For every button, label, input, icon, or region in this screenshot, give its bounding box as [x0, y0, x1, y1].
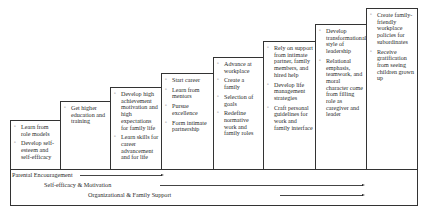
square-bullet-icon: ▫: [14, 124, 16, 131]
self-efficacy-motivation-arrow: [160, 185, 363, 186]
stage-5-item: ▫Create a family: [217, 77, 261, 90]
square-bullet-icon: ▫: [165, 77, 167, 84]
stage-6-item: ▫Rely on support from intimate partner, …: [267, 45, 313, 79]
stage-4-item: ▫Form intimate partnership: [165, 120, 211, 133]
stage-3-item: ▫Learn skills for career advancement and…: [114, 134, 159, 161]
stage-4-item: ▫Start career: [165, 77, 211, 84]
square-bullet-icon: ▫: [14, 140, 16, 147]
stage-1-item: ▫Develop self-esteem and self-efficacy: [14, 140, 58, 160]
stage-5-item: ▫Advance at workplace: [217, 61, 261, 74]
stage-5-item: ▫Redefine normative work and family role…: [217, 110, 261, 137]
stage-4-box: ▫Start career ▫Learn from mentors ▫Pursu…: [161, 73, 214, 169]
square-bullet-icon: ▫: [165, 103, 167, 110]
stage-3-item: ▫Develop high achievement motivation and…: [114, 91, 159, 131]
stage-7-item: ▫Relational emphasis, teamwork, and mora…: [319, 58, 364, 118]
square-bullet-icon: ▫: [217, 77, 219, 84]
square-bullet-icon: ▫: [114, 134, 116, 141]
flow-label-self-efficacy-motivation: Self-efficacy & Motivation: [44, 181, 111, 188]
flow-label-parental-encouragement: Parental Encouragement: [12, 171, 73, 178]
square-bullet-icon: ▫: [165, 87, 167, 94]
square-bullet-icon: ▫: [114, 91, 116, 98]
stage-2-box: ▫Get higher education and training: [60, 101, 111, 169]
stage-8-item: ▫Create family-friendly workplace polici…: [370, 12, 415, 46]
stage-4-item: ▫Learn from mentors: [165, 87, 211, 100]
stage-2-item: ▫Get higher education and training: [64, 105, 108, 125]
stage-7-box: ▫Develop transformational style of leade…: [315, 24, 367, 169]
organizational-family-support-arrow: [280, 195, 363, 196]
stage-7-item: ▫Develop transformational style of leade…: [319, 28, 364, 55]
square-bullet-icon: ▫: [319, 58, 321, 65]
square-bullet-icon: ▫: [64, 105, 66, 112]
square-bullet-icon: ▫: [370, 12, 372, 19]
square-bullet-icon: ▫: [267, 82, 269, 89]
square-bullet-icon: ▫: [217, 110, 219, 117]
square-bullet-icon: ▫: [267, 105, 269, 112]
stage-6-item: ▫Develop life management strategies: [267, 82, 313, 102]
square-bullet-icon: ▫: [267, 45, 269, 52]
stage-4-item: ▫Pursue excellence: [165, 103, 211, 116]
stage-8-item: ▫Receive gratification from seeing child…: [370, 49, 415, 83]
stage-6-item: ▫Craft personal guidelines for work and …: [267, 105, 313, 132]
stage-6-box: ▫Rely on support from intimate partner, …: [263, 41, 316, 169]
arrowhead-icon: [362, 184, 365, 186]
square-bullet-icon: ▫: [217, 94, 219, 101]
arrowhead-icon: [161, 174, 164, 176]
stage-1-item: ▫Learn from role models: [14, 124, 58, 137]
square-bullet-icon: ▫: [319, 28, 321, 35]
square-bullet-icon: ▫: [165, 120, 167, 127]
stage-3-box: ▫Develop high achievement motivation and…: [110, 87, 162, 169]
stage-5-box: ▫Advance at workplace ▫Create a family ▫…: [213, 57, 264, 169]
flow-label-organizational-family-support: Organizational & Family Support: [88, 191, 171, 198]
stage-8-box: ▫Create family-friendly workplace polici…: [366, 8, 418, 169]
square-bullet-icon: ▫: [217, 61, 219, 68]
stage-5-item: ▫Selection of goals: [217, 94, 261, 107]
stage-1-box: ▫Learn from role models ▫Develop self-es…: [10, 120, 61, 169]
square-bullet-icon: ▫: [370, 49, 372, 56]
parental-encouragement-arrow: [80, 175, 162, 176]
arrowhead-icon: [362, 194, 365, 196]
